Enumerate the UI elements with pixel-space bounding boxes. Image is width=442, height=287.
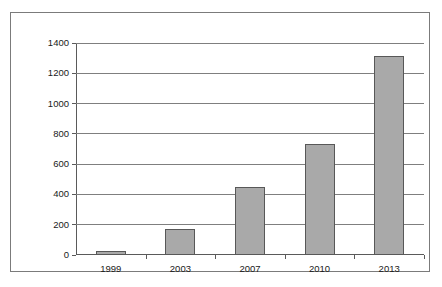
value-axis-line	[76, 43, 77, 255]
bar-1999[interactable]	[96, 251, 126, 255]
chart-root: 0200400600800100012001400 19992003200720…	[0, 0, 442, 287]
gridline-1200	[76, 73, 424, 74]
x-axis-label-1999: 1999	[100, 264, 121, 274]
gridline-800	[76, 133, 424, 134]
bar-2013[interactable]	[374, 56, 404, 255]
y-axis-label-1200: 1200	[48, 69, 69, 79]
x-tick-mark-3	[285, 255, 286, 259]
y-tick-mark-800	[72, 133, 76, 134]
y-tick-mark-1400	[72, 43, 76, 44]
x-tick-mark-1	[146, 255, 147, 259]
y-tick-mark-1200	[72, 73, 76, 74]
x-axis-label-2013: 2013	[379, 264, 400, 274]
y-axis-label-200: 200	[53, 220, 69, 230]
y-axis-label-1000: 1000	[48, 99, 69, 109]
y-axis-label-0: 0	[64, 250, 69, 260]
x-tick-mark-4	[354, 255, 355, 259]
y-axis-label-1400: 1400	[48, 38, 69, 48]
bar-2003[interactable]	[165, 229, 195, 256]
gridline-1000	[76, 103, 424, 104]
x-axis-label-2003: 2003	[170, 264, 191, 274]
chart-frame: 0200400600800100012001400 19992003200720…	[10, 12, 430, 272]
x-tick-mark-2	[215, 255, 216, 259]
gridline-600	[76, 164, 424, 165]
y-axis-label-600: 600	[53, 159, 69, 169]
x-axis-label-2010: 2010	[309, 264, 330, 274]
y-axis-label-400: 400	[53, 190, 69, 200]
x-axis-label-2007: 2007	[239, 264, 260, 274]
y-tick-mark-0	[72, 255, 76, 256]
y-tick-mark-200	[72, 224, 76, 225]
y-tick-mark-400	[72, 194, 76, 195]
x-tick-mark-5	[424, 255, 425, 259]
plot-area: 0200400600800100012001400 19992003200720…	[76, 43, 424, 255]
bar-2010[interactable]	[305, 144, 335, 255]
y-tick-mark-600	[72, 164, 76, 165]
bar-2007[interactable]	[235, 187, 265, 255]
y-tick-mark-1000	[72, 103, 76, 104]
y-axis-label-800: 800	[53, 129, 69, 139]
gridline-1400	[76, 43, 424, 44]
